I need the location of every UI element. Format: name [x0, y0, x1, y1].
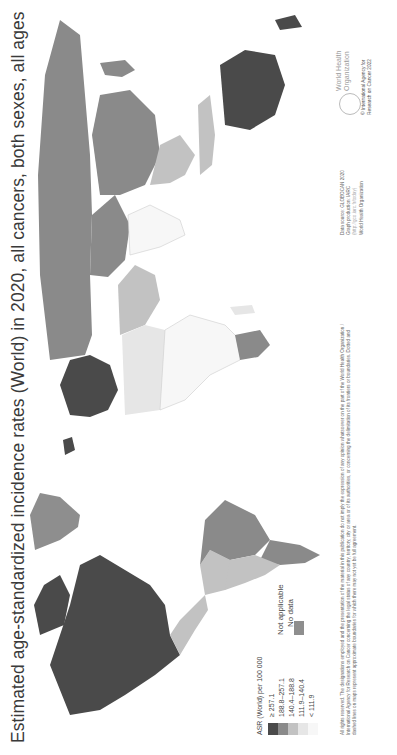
legend-label-4: 111.9–140.4: [298, 679, 305, 717]
source-line-4: World Health Organization: [359, 170, 365, 235]
legend-label-not-applicable: Not applicable: [276, 584, 285, 635]
legend-swatch-2: [278, 723, 288, 735]
map-title: Estimated age-standardized incidence rat…: [8, 11, 29, 743]
legend-label-no-data: No data: [286, 599, 295, 627]
world-choropleth-map: [30, 0, 330, 755]
disclaimer-text: All rights reserved. The designations em…: [340, 315, 359, 735]
region-australia: [220, 50, 285, 130]
legend-label-5: < 111.9: [308, 694, 315, 717]
legend-label-2: 188.8–257.1: [278, 678, 285, 717]
region-russia: [38, 20, 92, 360]
who-name-line-1: World Health: [335, 51, 343, 91]
legend-swatch-1: [268, 723, 278, 735]
region-india: [128, 205, 185, 255]
region-north-america: [50, 555, 180, 715]
region-central-america: [170, 595, 208, 655]
who-name: World Health Organization: [335, 51, 351, 91]
region-greenland: [30, 493, 80, 550]
region-japan: [100, 60, 135, 77]
region-western-europe: [60, 355, 118, 417]
legend-label-3: 140.4–188.8: [288, 678, 295, 717]
legend-header: ASR (World) per 100 000: [256, 657, 263, 735]
legend-swatch-4: [298, 723, 308, 735]
region-china: [92, 90, 160, 195]
data-source: Data source: GLOBOCAN 2020 Graph product…: [340, 170, 365, 235]
region-iceland: [63, 437, 75, 455]
legend-label-1: ≥ 257.1: [268, 694, 275, 717]
region-indonesia: [198, 95, 215, 175]
who-emblem-icon: [339, 93, 361, 115]
who-name-line-2: Organization: [343, 51, 351, 91]
iarc-copyright: © International Agency for Research on C…: [361, 59, 373, 115]
region-middle-east: [118, 265, 160, 335]
legend-swatch-not-applicable: [294, 621, 304, 635]
region-new-zealand: [275, 15, 302, 30]
region-southern-africa: [235, 330, 270, 360]
legend-swatch-3: [288, 723, 298, 735]
legend-swatch-5: [308, 723, 318, 735]
rotated-map-figure: Estimated age-standardized incidence rat…: [0, 0, 397, 755]
region-madagascar: [230, 305, 255, 315]
region-sub-saharan-africa: [160, 315, 245, 410]
region-central-asia: [90, 195, 130, 277]
copyright-line-2: Research on Cancer 2022: [367, 59, 373, 115]
